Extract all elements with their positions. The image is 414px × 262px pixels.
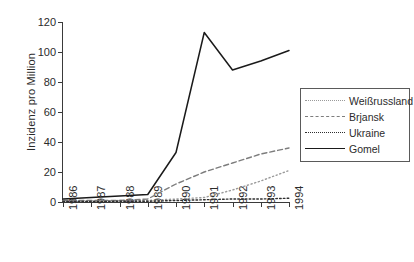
y-tick-label: 60: [22, 106, 63, 118]
legend-swatch-icon: [305, 132, 345, 134]
legend-item-3: Gomel: [305, 141, 404, 157]
series-lines: [63, 22, 289, 202]
series-line-gomel: [63, 33, 289, 200]
x-tick-mark: [289, 202, 290, 207]
x-tick-mark: [120, 202, 121, 207]
x-tick-mark: [261, 202, 262, 207]
series-line-brjansk: [63, 148, 289, 201]
y-tick-label: 20: [22, 166, 63, 178]
x-tick-mark: [91, 202, 92, 207]
legend-swatch-icon: [305, 148, 345, 150]
x-tick-mark: [63, 202, 64, 207]
x-tick-mark: [233, 202, 234, 207]
plot-area: 020406080100120 198619871988198919901991…: [62, 22, 289, 203]
legend-item-0: Weißrussland: [305, 93, 404, 109]
legend-label: Weißrussland: [349, 95, 413, 107]
x-tick-mark: [204, 202, 205, 207]
y-tick-label: 40: [22, 136, 63, 148]
legend-item-1: Brjansk: [305, 109, 404, 125]
legend-label: Ukraine: [349, 127, 385, 139]
y-tick-label: 100: [22, 46, 63, 58]
x-tick-mark: [148, 202, 149, 207]
y-tick-label: 0: [22, 196, 63, 208]
y-tick-label: 120: [22, 16, 63, 28]
x-tick-label: 1994: [293, 186, 305, 210]
legend-swatch-icon: [305, 116, 345, 118]
chart-figure: Inzidenz pro Million 020406080100120 198…: [0, 0, 414, 262]
legend-swatch-icon: [305, 100, 345, 102]
y-tick-label: 80: [22, 76, 63, 88]
legend-label: Gomel: [349, 143, 380, 155]
x-tick-mark: [176, 202, 177, 207]
legend-item-2: Ukraine: [305, 125, 404, 141]
legend-label: Brjansk: [349, 111, 384, 123]
chart-legend: Weißrussland Brjansk Ukraine Gomel: [300, 88, 410, 162]
